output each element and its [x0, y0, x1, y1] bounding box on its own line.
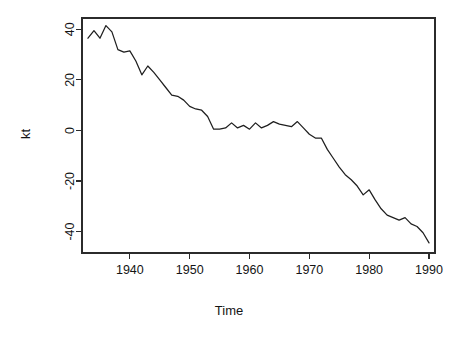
y-tick-label: -20 [63, 172, 77, 190]
y-tick-label: -40 [63, 222, 77, 240]
x-tick-label: 1980 [355, 263, 383, 277]
y-tick-label: 40 [63, 22, 77, 36]
chart-figure: 40200-20-40 194019501960197019801990 Tim… [0, 0, 459, 340]
y-axis-tick-labels: 40200-20-40 [63, 22, 77, 240]
x-tick-label: 1970 [295, 263, 323, 277]
y-tick-label: 20 [63, 73, 77, 87]
plot-frame-border [82, 18, 435, 253]
x-tick-label: 1960 [236, 263, 264, 277]
x-axis-tick-labels: 194019501960197019801990 [116, 263, 443, 277]
axes-group [76, 18, 435, 259]
x-tick-label: 1940 [116, 263, 144, 277]
series-line-kt [88, 26, 429, 243]
x-tick-label: 1990 [415, 263, 443, 277]
y-axis-title: kt [18, 129, 33, 140]
x-tick-label: 1950 [176, 263, 204, 277]
x-axis-title: Time [215, 303, 243, 318]
series-group [88, 26, 429, 243]
x-axis-ticks [130, 253, 429, 259]
line-chart-canvas: 40200-20-40 194019501960197019801990 Tim… [0, 0, 459, 340]
y-tick-label: 0 [63, 127, 77, 134]
